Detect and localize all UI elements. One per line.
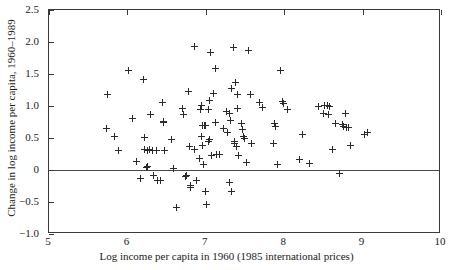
data-point [223,108,230,115]
data-point [160,118,167,125]
data-point [198,133,205,140]
data-point [129,115,136,122]
data-point [340,123,347,130]
x-tick-label: 10 [435,235,446,247]
scatter-plot-figure: −1.0−0.500.51.01.52.02.5 5678910 Log inc… [0,0,453,270]
data-point [197,106,204,113]
data-point [104,91,111,98]
y-tick-mark [49,170,54,171]
data-point [213,151,220,158]
data-point [185,88,192,95]
data-point [153,147,160,154]
data-point [332,120,339,127]
x-tick-label: 7 [202,235,208,247]
data-point [182,173,189,180]
data-point [284,106,291,113]
data-point [228,85,235,92]
data-point [280,100,287,107]
data-point [325,111,332,118]
data-point [299,131,306,138]
data-point [329,146,336,153]
data-point [279,98,286,105]
data-point [345,124,352,131]
x-tick-label: 5 [45,235,51,247]
data-point [256,99,263,106]
data-point [196,155,203,162]
data-point [160,119,167,126]
data-point [183,172,190,179]
data-point [205,106,212,113]
data-point [231,140,238,147]
x-axis-title: Log income per capita in 1960 (1985 inte… [0,250,453,262]
data-point [238,120,245,127]
data-point [208,152,215,159]
data-point [277,67,284,74]
y-tick-label: −0.5 [19,195,39,207]
data-point [111,133,118,140]
data-point [216,151,223,158]
data-point [187,182,194,189]
x-tick-mark [363,10,364,15]
x-tick-mark [49,10,50,15]
data-point [235,152,242,159]
x-tick-label: 9 [359,235,365,247]
data-point [232,79,239,86]
data-point [228,188,235,195]
data-point [336,170,343,177]
data-point [212,119,219,126]
data-point [271,120,278,127]
data-point [361,131,368,138]
data-point [243,159,250,166]
data-point [203,201,210,208]
data-point [212,65,219,72]
data-point [224,129,231,136]
data-point [187,184,194,191]
data-point [296,156,303,163]
data-point [191,146,198,153]
data-point [202,188,209,195]
data-point [220,125,227,132]
data-point [270,140,277,147]
data-point [186,143,193,150]
data-point [306,160,313,167]
data-point [157,177,164,184]
y-tick-label: 0 [34,163,40,175]
data-point [364,129,371,136]
data-point [274,161,281,168]
data-point [141,134,148,141]
data-point [241,135,248,142]
y-tick-mark [49,74,54,75]
data-point [227,117,234,124]
data-point [245,47,252,54]
y-tick-label: 2.5 [25,3,39,15]
data-point [315,103,322,110]
data-point [144,163,151,170]
data-point [147,111,154,118]
y-tick-label: 2.0 [25,35,39,47]
data-point [198,102,205,109]
data-point [231,138,238,145]
y-tick-mark [49,138,54,139]
x-tick-label: 6 [124,235,130,247]
data-point [202,122,209,129]
data-point [133,158,140,165]
data-point [141,146,148,153]
data-point [320,110,327,117]
data-point [207,49,214,56]
data-point [103,125,110,132]
data-point [239,126,246,133]
data-point [173,204,180,211]
data-point [206,136,213,143]
data-point [226,110,233,117]
data-point [339,121,346,128]
data-point [342,110,349,117]
y-tick-label: −1.0 [19,227,39,239]
data-point [240,133,247,140]
x-axis-tick-labels: 5678910 [48,235,440,251]
data-point [115,147,122,154]
data-point [137,175,144,182]
data-point [201,122,208,129]
data-point [234,91,241,98]
data-point [202,188,209,195]
data-point [210,90,217,97]
